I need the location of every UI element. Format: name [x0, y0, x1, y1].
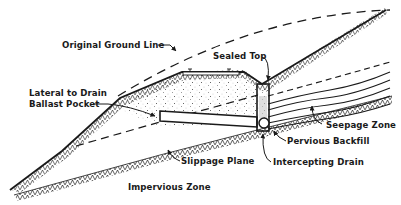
label-pervious-backfill: Pervious Backfill — [287, 136, 369, 146]
leader-intercepting-drain — [263, 134, 271, 162]
intercepting-drain-pipe — [259, 118, 269, 128]
backfill-shade — [259, 96, 267, 118]
label-impervious-zone: Impervious Zone — [128, 182, 211, 192]
label-original-ground-line: Original Ground Line — [62, 40, 164, 50]
label-intercepting-drain: Intercepting Drain — [273, 157, 364, 167]
drain-cross-section-diagram: Original Ground Line Sealed Top Lateral … — [0, 0, 401, 205]
label-ballast-pocket: Ballast Pocket — [29, 99, 99, 109]
sealed-top-cap — [183, 72, 239, 75]
diagram-canvas: Original Ground Line Sealed Top Lateral … — [0, 0, 401, 205]
label-sealed-top: Sealed Top — [213, 51, 267, 61]
label-slippage-plane: Slippage Plane — [181, 156, 255, 166]
label-lateral-to-drain: Lateral to Drain — [29, 88, 107, 98]
label-seepage-zone: Seepage Zone — [326, 120, 396, 130]
